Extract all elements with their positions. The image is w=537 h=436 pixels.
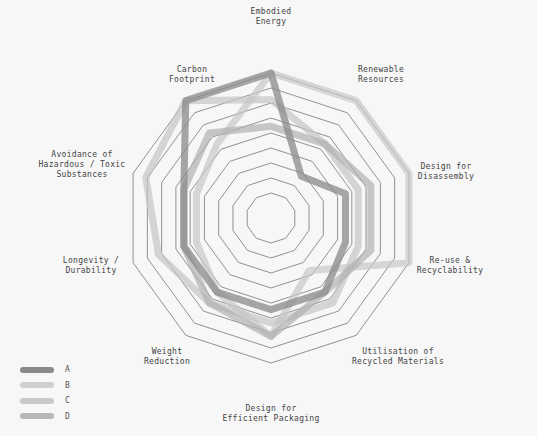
legend-swatch-a <box>20 367 54 373</box>
axis-label: Avoidance ofHazardous / ToxicSubstances <box>39 150 126 179</box>
axis-label: RenewableResources <box>358 65 404 84</box>
legend-item-b: B <box>20 378 70 394</box>
axis-label: WeightReduction <box>144 347 190 366</box>
legend-swatch-b <box>20 382 54 388</box>
grid-ring <box>233 178 309 258</box>
legend: A B C D <box>20 362 70 424</box>
grid-ring <box>247 193 295 243</box>
legend-swatch-c <box>20 398 54 404</box>
legend-label-c: C <box>65 396 70 405</box>
legend-label-a: A <box>65 365 70 374</box>
axis-label: Design forDisassembly <box>418 162 474 181</box>
axis-label: EmbodiedEnergy <box>251 7 292 26</box>
legend-label-b: B <box>65 381 70 390</box>
legend-item-d: D <box>20 409 70 425</box>
radar-chart: EmbodiedEnergyRenewableResourcesDesign f… <box>0 0 537 436</box>
axis-label: Re-use &Recyclability <box>417 256 484 275</box>
axis-label: Design forEfficient Packaging <box>222 404 319 423</box>
legend-item-a: A <box>20 362 70 378</box>
legend-swatch-d <box>20 413 54 419</box>
radar-series <box>146 73 409 336</box>
axis-labels: EmbodiedEnergyRenewableResourcesDesign f… <box>39 7 484 423</box>
axis-label: CarbonFootprint <box>169 65 215 84</box>
axis-label: Longevity /Durability <box>63 256 119 275</box>
legend-label-d: D <box>65 412 70 421</box>
axis-label: Utilisation ofRecycled Materials <box>352 347 444 366</box>
legend-item-c: C <box>20 393 70 409</box>
